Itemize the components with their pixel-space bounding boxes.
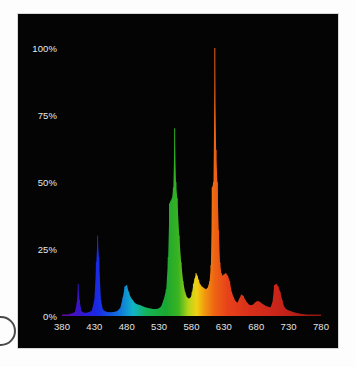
x-tick-label-430: 430 (86, 321, 102, 332)
scan-edge-artifact (0, 316, 16, 346)
x-tick-label-680: 680 (248, 321, 264, 332)
x-tick-label-380: 380 (54, 321, 70, 332)
y-tick-label-25: 25% (38, 244, 57, 255)
x-tick-label-630: 630 (216, 321, 232, 332)
y-tick-label-0: 0% (43, 311, 57, 322)
plot-area (62, 48, 321, 316)
chart-page: Relative Spectral Power Distribution 100… (0, 0, 356, 367)
x-tick-label-480: 480 (119, 321, 135, 332)
y-tick-label-50: 50% (38, 177, 57, 188)
y-tick-label-100: 100% (32, 43, 57, 54)
spectral-chart: 100% 75% 50% 25% 0% 380 430 480 530 580 … (18, 14, 338, 348)
spectrum-plot (62, 48, 321, 316)
x-tick-label-530: 530 (151, 321, 167, 332)
y-axis: 100% 75% 50% 25% 0% (18, 14, 62, 348)
x-tick-label-780: 780 (313, 321, 329, 332)
y-tick-label-75: 75% (38, 110, 57, 121)
x-axis: 380 430 480 530 580 630 680 730 780 (62, 317, 321, 339)
x-tick-label-580: 580 (183, 321, 199, 332)
x-tick-label-730: 730 (281, 321, 297, 332)
